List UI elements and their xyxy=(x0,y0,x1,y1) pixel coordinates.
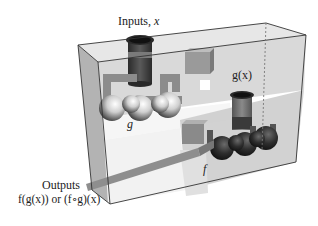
outputs-formula: f(g(x)) or (f∘g)(x) xyxy=(18,193,100,206)
g-cube xyxy=(185,52,210,74)
g-spheres xyxy=(99,92,181,121)
inputs-label: Inputs, x xyxy=(118,14,160,28)
g-machine-label: g xyxy=(127,117,133,131)
gx-label: g(x) xyxy=(232,68,252,82)
gx-funnel xyxy=(230,91,254,130)
composite-function-diagram: Inputs, x g(x) g f Outputs f(g(x)) or (f… xyxy=(0,0,318,226)
f-cube xyxy=(182,124,204,144)
outputs-title: Outputs xyxy=(42,178,80,192)
